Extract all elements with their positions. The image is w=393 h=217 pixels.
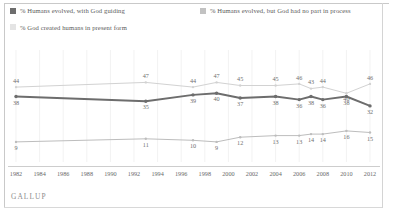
x-axis-tick-label: 2012 xyxy=(364,170,376,177)
legend-label-god-guiding: % Humans evolved, with God guiding xyxy=(20,7,125,15)
x-axis-tick-label: 1998 xyxy=(199,170,211,177)
data-point-label: 13 xyxy=(296,138,302,145)
legend-swatch-mid xyxy=(200,8,206,14)
data-labels: 4447444745454643444046383539403738363836… xyxy=(13,72,373,151)
data-point xyxy=(345,92,347,94)
x-axis-line xyxy=(8,166,380,167)
data-point-label: 9 xyxy=(14,144,17,151)
data-point-label: 12 xyxy=(237,139,243,146)
data-point xyxy=(15,141,17,143)
chart-legend: % Humans evolved, with God guiding % Hum… xyxy=(10,7,380,31)
data-point xyxy=(322,133,324,135)
x-axis-tick-label: 1990 xyxy=(104,170,116,177)
x-axis-tick-label: 2002 xyxy=(246,170,258,177)
data-point-label: 38 xyxy=(13,99,19,106)
chart-figure: % Humans evolved, with God guiding % Hum… xyxy=(0,0,393,217)
legend-row-1: % Humans evolved, with God guiding % Hum… xyxy=(10,7,380,15)
data-point xyxy=(239,84,241,86)
data-point-label: 43 xyxy=(308,78,314,85)
data-point-label: 47 xyxy=(214,72,220,79)
data-point xyxy=(215,141,217,143)
data-point-label: 40 xyxy=(214,95,220,102)
data-point xyxy=(345,130,347,132)
figure-border-top xyxy=(4,3,389,4)
legend-label-no-god: % Humans evolved, but God had no part in… xyxy=(210,7,351,15)
data-point-label: 14 xyxy=(308,136,314,143)
data-point-label: 44 xyxy=(320,77,326,84)
x-axis-tick-label: 1984 xyxy=(33,170,45,177)
x-axis-tick-label: 2008 xyxy=(317,170,329,177)
data-point xyxy=(239,136,241,138)
line-chart-svg: 4447444745454643444046383539403738363836… xyxy=(10,50,380,162)
series-layer xyxy=(14,81,371,143)
x-axis-tick-label: 2010 xyxy=(340,170,352,177)
legend-row-2: % God created humans in present form xyxy=(10,15,380,32)
x-axis-tick-label: 1988 xyxy=(81,170,93,177)
x-axis-tick-label: 1992 xyxy=(128,170,140,177)
x-axis-tick-label: 1994 xyxy=(151,170,163,177)
data-point-label: 36 xyxy=(296,102,302,109)
data-point xyxy=(369,131,371,133)
figure-border-bottom xyxy=(4,207,382,208)
figure-border-left xyxy=(4,3,5,208)
data-point-label: 47 xyxy=(143,72,149,79)
data-point-label: 16 xyxy=(343,133,349,140)
legend-label-created: % God created humans in present form xyxy=(20,24,127,32)
data-point xyxy=(298,83,300,85)
data-point xyxy=(15,86,17,88)
data-point-label: 14 xyxy=(320,136,326,143)
x-axis-tick-label: 2000 xyxy=(222,170,234,177)
data-point-label: 13 xyxy=(273,138,279,145)
data-point xyxy=(215,81,217,83)
legend-item-god-guiding: % Humans evolved, with God guiding xyxy=(10,7,200,15)
data-point-label: 37 xyxy=(237,100,243,107)
data-point xyxy=(145,138,147,140)
plot-area: 4447444745454643444046383539403738363836… xyxy=(10,50,380,162)
legend-swatch-light xyxy=(10,24,16,30)
data-point-label: 36 xyxy=(320,102,326,109)
data-point-label: 44 xyxy=(13,77,19,84)
data-point-label: 46 xyxy=(367,74,373,81)
data-point xyxy=(310,133,312,135)
data-point-label: 46 xyxy=(296,74,302,81)
data-point xyxy=(192,139,194,141)
data-point-label: 45 xyxy=(237,75,243,82)
data-point xyxy=(274,84,276,86)
x-axis-tick-label: 2004 xyxy=(269,170,281,177)
data-point xyxy=(298,134,300,136)
x-axis-tick-label: 1986 xyxy=(57,170,69,177)
source-attribution: GALLUP xyxy=(11,192,47,201)
data-point-label: 9 xyxy=(215,144,218,151)
data-point xyxy=(369,83,371,85)
data-point-label: 35 xyxy=(143,103,149,110)
data-point-label: 38 xyxy=(343,99,349,106)
figure-border-right xyxy=(382,3,383,208)
data-point-label: 45 xyxy=(273,75,279,82)
x-axis-tick-label: 1982 xyxy=(10,170,22,177)
legend-item-no-god: % Humans evolved, but God had no part in… xyxy=(200,7,380,15)
x-axis-tick-label: 1996 xyxy=(175,170,187,177)
data-point-label: 32 xyxy=(367,108,373,115)
data-point xyxy=(192,86,194,88)
x-axis-tick-label: 2006 xyxy=(293,170,305,177)
data-point-label: 38 xyxy=(273,99,279,106)
legend-item-created: % God created humans in present form xyxy=(10,24,127,32)
data-point xyxy=(310,87,312,89)
data-point xyxy=(145,81,147,83)
data-point xyxy=(322,86,324,88)
legend-swatch-dark xyxy=(10,8,16,14)
data-point-label: 39 xyxy=(190,97,196,104)
data-point-label: 10 xyxy=(190,142,196,149)
data-point-label: 11 xyxy=(143,141,149,148)
data-point-label: 15 xyxy=(367,135,373,142)
data-point-label: 44 xyxy=(190,77,196,84)
data-point xyxy=(274,134,276,136)
x-axis-ticks: 1982198419861988199019921994199619982000… xyxy=(10,170,376,182)
data-point-label: 38 xyxy=(308,99,314,106)
